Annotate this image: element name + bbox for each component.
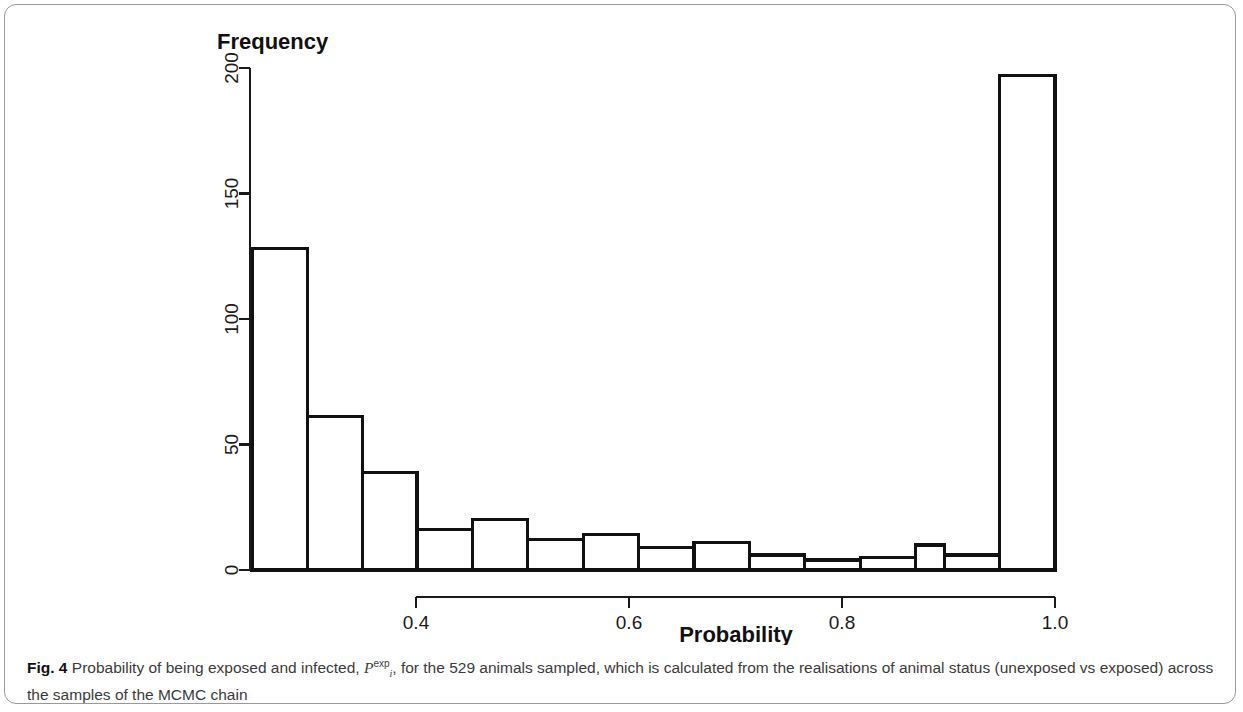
histogram-bar bbox=[363, 472, 417, 570]
histogram-bar bbox=[252, 249, 307, 570]
histogram-bar bbox=[307, 417, 362, 570]
figure-frame: 050100150200 0.40.60.81.0 Frequency Prob… bbox=[4, 4, 1236, 704]
histogram-bar bbox=[860, 557, 915, 570]
histogram-bar bbox=[749, 555, 804, 570]
caption-text-part1: Probability of being exposed and infecte… bbox=[72, 659, 360, 676]
y-tick-label: 100 bbox=[221, 303, 242, 335]
figure-caption: Fig. 4 Probability of being exposed and … bbox=[27, 653, 1217, 705]
y-axis-title: Frequency bbox=[217, 29, 329, 54]
histogram-bar bbox=[528, 540, 583, 570]
histogram-svg: 050100150200 0.40.60.81.0 Frequency Prob… bbox=[5, 5, 1243, 645]
histogram-bar bbox=[417, 530, 472, 570]
histogram-bar bbox=[694, 542, 749, 570]
y-axis: 050100150200 bbox=[221, 52, 251, 575]
math-superscript: exp bbox=[373, 658, 389, 669]
y-tick-label: 200 bbox=[221, 52, 242, 84]
histogram-bar bbox=[583, 535, 638, 570]
y-tick-label: 50 bbox=[221, 434, 242, 455]
y-tick-label: 0 bbox=[221, 565, 242, 576]
histogram-bar bbox=[944, 555, 999, 570]
histogram-bar bbox=[472, 520, 527, 570]
histogram-bar bbox=[915, 545, 944, 570]
math-symbol: Pexpi bbox=[364, 659, 392, 676]
histogram-bar bbox=[805, 560, 860, 570]
x-tick-label: 0.6 bbox=[616, 612, 642, 633]
caption-text-part2: , for the 529 animals sampled, which is … bbox=[392, 659, 990, 676]
x-tick-label: 0.4 bbox=[403, 612, 430, 633]
figure-label: Fig. 4 bbox=[27, 659, 67, 676]
histogram-bars bbox=[252, 76, 1055, 570]
chart-plot-area: 050100150200 0.40.60.81.0 Frequency Prob… bbox=[5, 5, 1243, 645]
x-tick-label: 0.8 bbox=[829, 612, 855, 633]
histogram-bar bbox=[1000, 76, 1055, 570]
y-tick-label: 150 bbox=[221, 178, 242, 210]
x-axis-title: Probability bbox=[679, 622, 793, 645]
x-tick-label: 1.0 bbox=[1042, 612, 1068, 633]
histogram-bar bbox=[639, 547, 694, 570]
math-base: P bbox=[364, 659, 373, 676]
